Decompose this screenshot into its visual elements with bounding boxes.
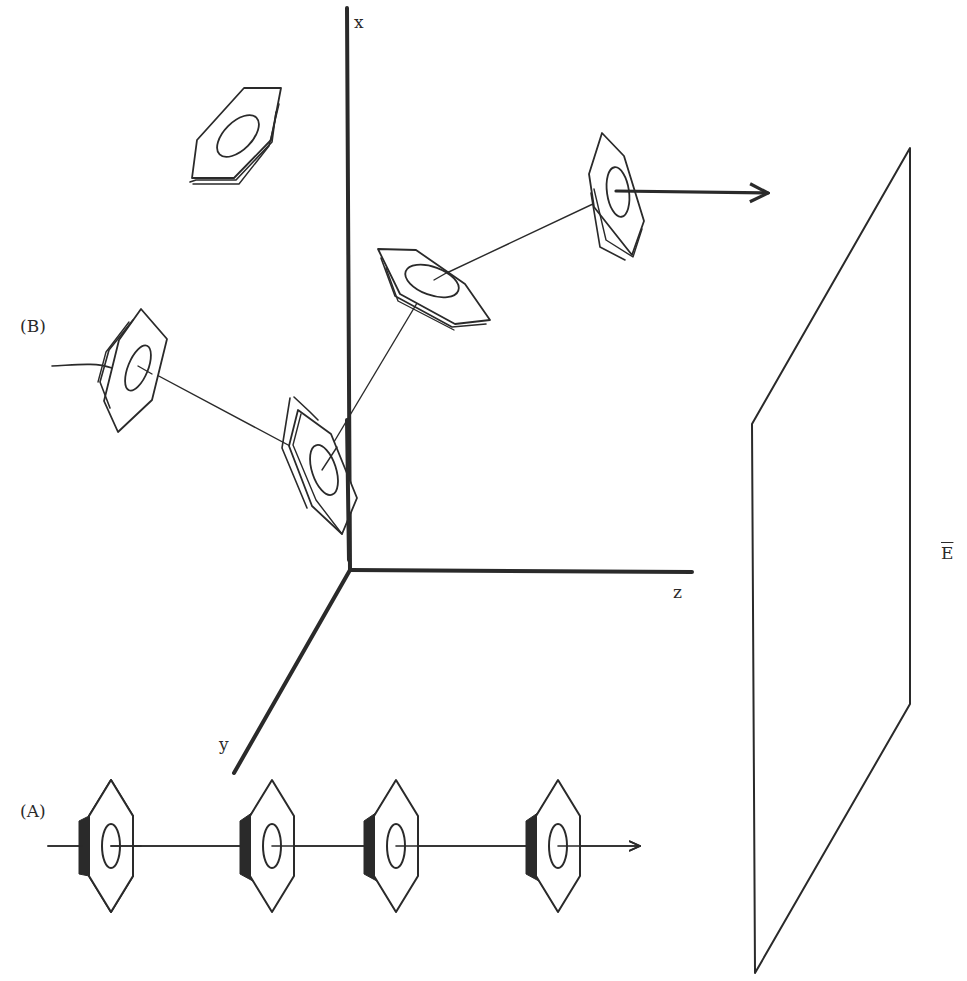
electric-field-label: E	[941, 545, 953, 562]
configuration-a-label: (A)	[20, 803, 46, 820]
coordinate-axes	[234, 8, 692, 773]
field-plate	[752, 148, 910, 973]
configuration-a	[48, 780, 640, 912]
y-axis	[234, 570, 350, 773]
configuration-b	[52, 133, 768, 560]
z-axis	[350, 570, 692, 572]
ring-b4	[589, 133, 644, 260]
x-axis-label: x	[354, 14, 364, 31]
ring-b1	[98, 309, 167, 432]
z-axis-label: z	[673, 584, 682, 601]
configuration-b-label: (B)	[20, 318, 46, 335]
rod-b2-b3	[322, 278, 432, 462]
ring-b2	[282, 397, 357, 560]
isolated-ring	[190, 88, 281, 184]
dipole-arrow-b	[616, 191, 768, 193]
diagram-canvas	[0, 0, 967, 981]
y-axis-label: y	[219, 736, 229, 753]
rod-b3-b4	[436, 195, 612, 278]
